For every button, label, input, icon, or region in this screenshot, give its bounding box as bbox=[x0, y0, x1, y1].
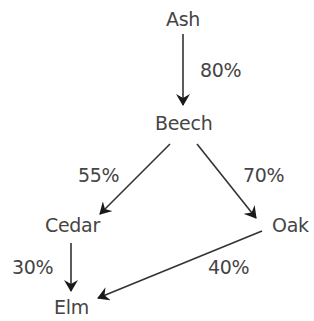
flow-diagram: Ash Beech Cedar Oak Elm 80% 55% 70% 30% … bbox=[0, 0, 314, 321]
edge-label-beech-oak: 70% bbox=[243, 166, 284, 185]
node-oak: Oak bbox=[272, 216, 309, 235]
edge-label-cedar-elm: 30% bbox=[12, 258, 53, 277]
edge-label-oak-elm: 40% bbox=[208, 258, 249, 277]
node-elm: Elm bbox=[54, 298, 89, 317]
node-beech: Beech bbox=[155, 114, 212, 133]
node-ash: Ash bbox=[166, 10, 200, 29]
edge-label-beech-cedar: 55% bbox=[78, 166, 119, 185]
node-cedar: Cedar bbox=[45, 216, 100, 235]
edge-label-ash-beech: 80% bbox=[200, 61, 241, 80]
